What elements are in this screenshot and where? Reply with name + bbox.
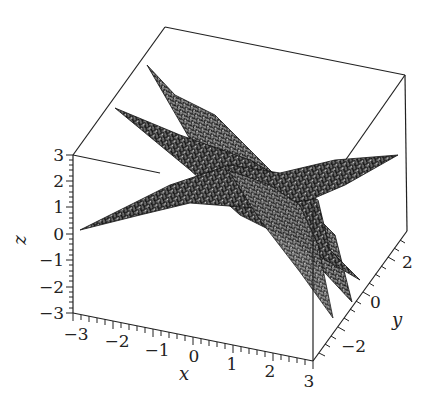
svg-text:−2: −2 <box>341 336 366 356</box>
svg-text:3: 3 <box>304 371 315 391</box>
z-axis-ticks <box>66 155 73 313</box>
svg-text:0: 0 <box>53 224 64 244</box>
surface-plot: 3 2 1 0 −1 −2 −3 z −3 −2 −1 0 1 2 3 x −2… <box>0 0 428 404</box>
svg-text:2: 2 <box>53 171 64 191</box>
y-tick-labels: −2 0 2 <box>341 252 413 356</box>
z-axis-label: z <box>9 235 30 246</box>
x-axis-label: x <box>179 363 189 384</box>
surface-1 <box>80 155 398 318</box>
svg-text:−2: −2 <box>39 277 64 297</box>
svg-text:2: 2 <box>265 361 276 381</box>
y-axis-label: y <box>391 309 403 330</box>
z-tick-labels: 3 2 1 0 −1 −2 −3 <box>39 145 64 323</box>
svg-text:−2: −2 <box>104 331 129 351</box>
svg-text:−3: −3 <box>39 303 64 323</box>
svg-text:1: 1 <box>53 197 64 217</box>
svg-text:1: 1 <box>227 354 238 374</box>
svg-text:−1: −1 <box>39 250 64 270</box>
svg-text:−3: −3 <box>63 324 88 344</box>
svg-text:0: 0 <box>189 346 200 366</box>
svg-text:2: 2 <box>402 252 413 272</box>
svg-text:0: 0 <box>370 292 381 312</box>
svg-text:3: 3 <box>53 145 64 165</box>
svg-text:−1: −1 <box>144 340 169 360</box>
